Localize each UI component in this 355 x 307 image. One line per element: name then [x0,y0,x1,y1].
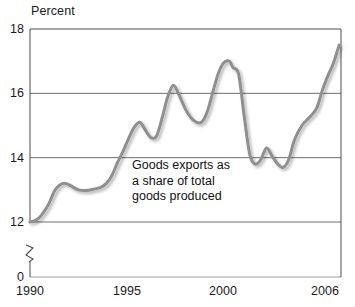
data-line-goods-exports [30,45,339,222]
chart-figure: Percent 18 16 14 12 0 1990 1995 2000 200… [0,0,355,307]
axis-break-zigzag [26,245,33,262]
gridlines [30,29,341,222]
axis-frame [30,29,341,277]
plot-area [0,0,355,307]
